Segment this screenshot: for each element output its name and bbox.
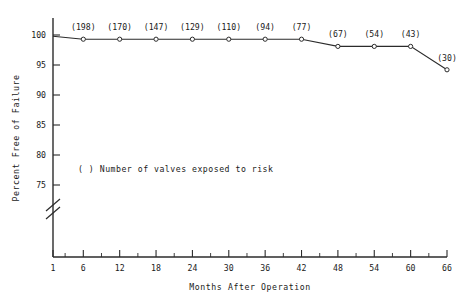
data-point-marker xyxy=(372,44,376,48)
data-point-marker xyxy=(445,68,449,72)
x-tick-label: 36 xyxy=(260,263,270,273)
x-tick-label: 54 xyxy=(369,263,379,273)
y-tick-label: 85 xyxy=(36,120,46,130)
y-tick-label: 95 xyxy=(36,60,46,70)
y-axis-title: Percent Free of Failure xyxy=(11,74,21,201)
data-point-group xyxy=(81,37,449,72)
data-point-marker xyxy=(118,37,122,41)
data-point-label: (67) xyxy=(328,29,348,39)
data-point-marker xyxy=(263,37,267,41)
data-point-label: (129) xyxy=(180,22,205,32)
x-tick-group: 1612182430364248546066 xyxy=(51,250,452,273)
data-point-label: (198) xyxy=(71,22,96,32)
x-tick-label: 66 xyxy=(442,263,452,273)
x-axis-title: Months After Operation xyxy=(189,282,311,292)
y-tick-label: 90 xyxy=(36,90,46,100)
data-point-label: (30) xyxy=(437,53,457,63)
x-tick-label: 24 xyxy=(187,263,197,273)
x-tick-label: 6 xyxy=(81,263,86,273)
chart-annotation-note: ( ) Number of valves exposed to risk xyxy=(78,164,273,174)
data-point-marker xyxy=(409,44,413,48)
data-point-label: (77) xyxy=(292,22,312,32)
y-tick-label: 75 xyxy=(36,180,46,190)
y-tick-group: 1009590858075 xyxy=(31,30,60,190)
point-label-group: (198)(170)(147)(129)(110)(94)(77)(67)(54… xyxy=(71,22,457,63)
x-tick-label: 1 xyxy=(51,263,56,273)
data-point-marker xyxy=(190,37,194,41)
data-point-marker xyxy=(336,44,340,48)
data-point-label: (147) xyxy=(144,22,169,32)
data-point-label: (110) xyxy=(216,22,241,32)
survival-chart: 1009590858075 1612182430364248546066 (19… xyxy=(0,0,463,299)
data-point-marker xyxy=(154,37,158,41)
y-tick-label: 80 xyxy=(36,150,46,160)
data-point-marker xyxy=(299,37,303,41)
chart-canvas: 1009590858075 1612182430364248546066 (19… xyxy=(0,0,463,299)
y-tick-label: 100 xyxy=(31,30,46,40)
x-tick-label: 12 xyxy=(115,263,125,273)
data-point-label: (43) xyxy=(401,29,421,39)
x-tick-label: 60 xyxy=(406,263,416,273)
data-point-label: (170) xyxy=(107,22,132,32)
x-tick-label: 48 xyxy=(333,263,343,273)
data-point-marker xyxy=(81,37,85,41)
x-tick-label: 42 xyxy=(297,263,307,273)
series-line-percent-free-of-failure xyxy=(53,36,447,70)
x-tick-label: 30 xyxy=(224,263,234,273)
data-point-marker xyxy=(227,37,231,41)
x-tick-label: 18 xyxy=(151,263,161,273)
data-point-label: (94) xyxy=(255,22,275,32)
data-point-label: (54) xyxy=(364,29,384,39)
